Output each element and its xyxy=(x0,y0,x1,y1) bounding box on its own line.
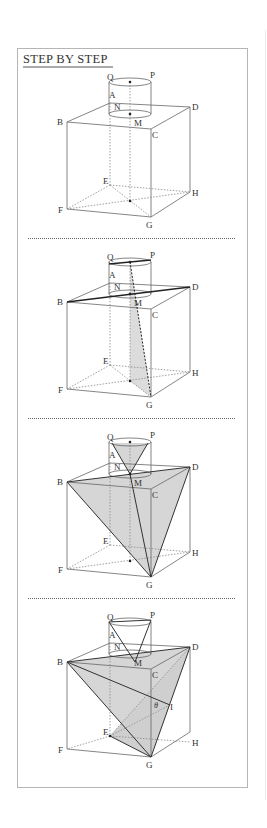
diagram-step-2: Q P A N M B C D E F G H xyxy=(0,250,267,415)
svg-text:C: C xyxy=(152,490,158,500)
diagram-step-3: Q P A N M B C D E F G H xyxy=(0,430,267,595)
svg-text:H: H xyxy=(192,548,199,558)
svg-text:Q: Q xyxy=(107,612,114,622)
svg-text:B: B xyxy=(57,117,63,127)
svg-text:I: I xyxy=(170,702,173,712)
svg-text:E: E xyxy=(103,176,109,186)
svg-text:E: E xyxy=(103,536,109,546)
svg-text:G: G xyxy=(146,580,153,590)
svg-text:P: P xyxy=(150,610,155,620)
svg-text:Q: Q xyxy=(107,72,114,82)
divider-1 xyxy=(28,238,235,239)
svg-text:D: D xyxy=(192,642,199,652)
svg-text:E: E xyxy=(103,727,109,737)
svg-text:B: B xyxy=(57,657,63,667)
title-underline xyxy=(23,66,113,68)
svg-text:C: C xyxy=(152,130,158,140)
svg-text:F: F xyxy=(58,745,63,755)
svg-text:A: A xyxy=(109,630,116,640)
svg-text:A: A xyxy=(109,450,116,460)
svg-text:M: M xyxy=(134,118,142,128)
svg-text:A: A xyxy=(109,90,116,100)
svg-text:D: D xyxy=(192,462,199,472)
svg-text:F: F xyxy=(58,385,63,395)
divider-3 xyxy=(28,598,235,599)
svg-text:P: P xyxy=(150,70,155,80)
svg-text:C: C xyxy=(152,310,158,320)
svg-text:P: P xyxy=(150,250,155,260)
svg-text:M: M xyxy=(134,658,142,668)
divider-2 xyxy=(28,418,235,419)
diagram-step-1: Q P A N M B C D E F G H xyxy=(0,70,267,235)
svg-text:Q: Q xyxy=(107,432,114,442)
svg-text:C: C xyxy=(152,670,158,680)
svg-text:P: P xyxy=(150,430,155,440)
svg-text:G: G xyxy=(146,760,153,770)
svg-text:A: A xyxy=(109,270,116,280)
svg-text:B: B xyxy=(57,477,63,487)
svg-text:F: F xyxy=(58,565,63,575)
svg-text:H: H xyxy=(192,738,199,748)
section-title: STEP BY STEP xyxy=(23,52,108,67)
svg-text:N: N xyxy=(114,282,121,292)
svg-text:θ: θ xyxy=(154,701,158,710)
diagram-step-4: Q P A N M B C D I θ E F G H xyxy=(0,610,267,785)
svg-text:H: H xyxy=(192,368,199,378)
svg-text:B: B xyxy=(57,297,63,307)
svg-text:E: E xyxy=(103,356,109,366)
svg-text:G: G xyxy=(146,400,153,410)
svg-text:M: M xyxy=(134,298,142,308)
svg-text:M: M xyxy=(134,478,142,488)
svg-text:N: N xyxy=(114,642,121,652)
svg-text:H: H xyxy=(192,188,199,198)
svg-text:N: N xyxy=(114,102,121,112)
svg-text:N: N xyxy=(114,462,121,472)
svg-text:D: D xyxy=(192,102,199,112)
svg-text:Q: Q xyxy=(107,252,114,262)
svg-text:G: G xyxy=(146,220,153,230)
svg-text:F: F xyxy=(58,205,63,215)
svg-text:D: D xyxy=(192,282,199,292)
